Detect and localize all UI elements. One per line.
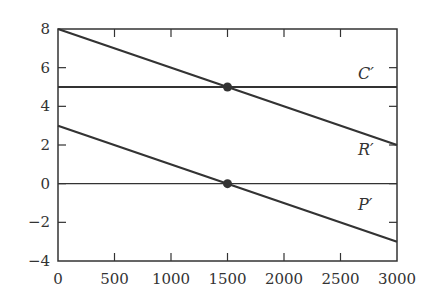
series-lines	[58, 29, 397, 242]
svg-text:3000: 3000	[378, 270, 416, 288]
label-r-prime: R′	[357, 140, 374, 159]
label-p-prime: P′	[357, 195, 373, 214]
svg-text:4: 4	[40, 97, 50, 115]
svg-text:2000: 2000	[265, 270, 303, 288]
x-tick-labels: 050010001500200025003000	[53, 270, 416, 288]
intersection-dot	[223, 179, 232, 188]
svg-text:2500: 2500	[321, 270, 359, 288]
svg-text:−4: −4	[28, 252, 50, 270]
axis-ticks	[58, 29, 397, 261]
plot-frame	[58, 29, 397, 261]
label-c-prime: C′	[358, 64, 374, 83]
svg-text:−2: −2	[28, 213, 50, 231]
svg-text:8: 8	[40, 20, 50, 38]
chart: 050010001500200025003000 −4−202468 C′ R′…	[0, 0, 435, 308]
svg-text:1000: 1000	[152, 270, 190, 288]
intersection-dot	[223, 83, 232, 92]
svg-text:0: 0	[53, 270, 63, 288]
svg-text:2: 2	[40, 136, 50, 154]
svg-text:0: 0	[40, 175, 50, 193]
intersection-points	[223, 83, 232, 189]
y-tick-labels: −4−202468	[28, 20, 50, 270]
svg-text:1500: 1500	[208, 270, 246, 288]
svg-text:6: 6	[40, 59, 50, 77]
svg-text:500: 500	[100, 270, 129, 288]
